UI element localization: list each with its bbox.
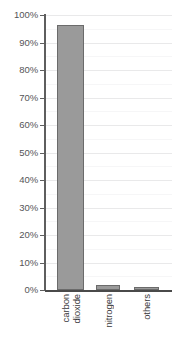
y-axis-tick-label: 50%	[0, 148, 38, 158]
y-axis-tick-mark	[40, 208, 44, 209]
y-axis-tick-mark	[40, 43, 44, 44]
x-axis-category-label-line: dioxide	[71, 294, 82, 323]
y-axis-tick-mark	[40, 98, 44, 99]
x-axis-category-label: others	[134, 294, 159, 353]
y-axis-tick-label: 10%	[0, 258, 38, 268]
y-axis-tick-mark	[40, 15, 44, 16]
y-axis-tick-mark	[40, 153, 44, 154]
y-axis-tick-label: 90%	[0, 38, 38, 48]
y-axis-tick-label: 80%	[0, 65, 38, 75]
y-axis-tick-mark	[40, 263, 44, 264]
bar-chart: 0%10%20%30%40%50%60%70%80%90%100% carbon…	[0, 0, 174, 353]
x-axis-category-label: nitrogen	[96, 294, 120, 353]
y-axis-tick-label: 40%	[0, 175, 38, 185]
gridline	[45, 15, 172, 16]
y-axis-tick-label: 30%	[0, 203, 38, 213]
y-axis-tick-label: 0%	[0, 285, 38, 295]
y-axis-tick-mark	[40, 125, 44, 126]
y-axis-tick-mark	[40, 290, 44, 291]
y-axis-tick-labels: 0%10%20%30%40%50%60%70%80%90%100%	[0, 0, 38, 353]
y-axis-line	[44, 14, 46, 291]
x-axis-category-label-line: others	[141, 294, 152, 320]
y-axis-tick-label: 70%	[0, 93, 38, 103]
x-axis-category-label-line: nitrogen	[103, 294, 114, 328]
plot-area	[45, 15, 172, 290]
y-axis-tick-mark	[40, 235, 44, 236]
y-axis-tick-label: 20%	[0, 230, 38, 240]
x-axis-category-label: carbondioxide	[57, 294, 84, 353]
y-axis-tick-mark	[40, 180, 44, 181]
y-axis-tick-label: 60%	[0, 120, 38, 130]
y-axis-tick-label: 100%	[0, 10, 38, 20]
bar	[57, 25, 84, 290]
x-axis-line	[45, 290, 172, 292]
x-axis-category-label-line: carbon	[60, 294, 71, 322]
y-axis-tick-mark	[40, 70, 44, 71]
x-axis-category-labels: carbondioxidenitrogenothers	[45, 294, 172, 353]
